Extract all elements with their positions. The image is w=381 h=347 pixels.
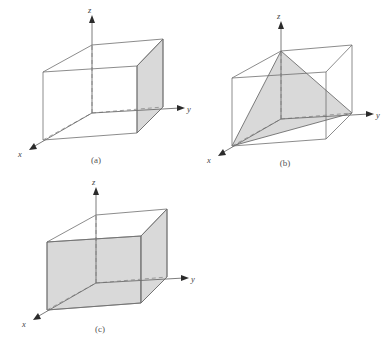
cube-c-x-label: x: [21, 319, 26, 329]
cube-c-y-arrowhead: [181, 275, 189, 281]
cube-b-shaded-triangle: [232, 51, 352, 146]
cube-c-shaded-front-face: [47, 236, 141, 310]
panel-a-label: (a): [91, 155, 101, 165]
cube-b-x-arrowhead: [218, 149, 226, 156]
cube-a-x-axis: [33, 113, 92, 147]
cube-b-y-label: y: [375, 110, 380, 120]
panel-c-label: (c): [95, 324, 105, 334]
cube-b-z-label: z: [276, 11, 281, 21]
cube-a-z-arrowhead: [89, 15, 95, 23]
cube-b-y-arrowhead: [366, 111, 374, 117]
cube-c-z-label: z: [91, 177, 96, 187]
cube-a-y-arrowhead: [177, 105, 185, 111]
cube-c-z-arrowhead: [93, 187, 99, 195]
three-cubes-figure: z y x (a) z y x: [0, 0, 381, 347]
cube-a-shaded-right-face: [137, 39, 163, 133]
panel-b: z y x (b): [206, 11, 380, 168]
cube-c-shaded-right-face: [141, 209, 167, 303]
cube-c-y-label: y: [190, 274, 195, 284]
cube-a-x-arrowhead: [29, 143, 37, 150]
cube-a-y-axis: [92, 108, 180, 113]
cube-a-z-label: z: [87, 5, 92, 15]
panel-b-label: (b): [280, 158, 291, 168]
cube-a-y-label: y: [186, 104, 191, 114]
cube-c-x-arrowhead: [33, 313, 41, 320]
cube-b-z-arrowhead: [278, 21, 284, 29]
panel-a: z y x (a): [17, 5, 191, 165]
cube-a-x-label: x: [17, 149, 22, 159]
panel-c: z y x (c): [21, 177, 195, 334]
cube-b-x-label: x: [206, 155, 211, 165]
